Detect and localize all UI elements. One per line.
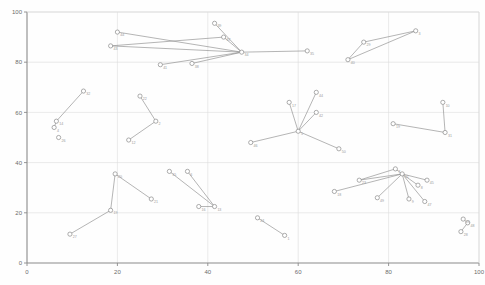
graph-node[interactable] xyxy=(240,50,244,54)
graph-node[interactable] xyxy=(212,204,216,208)
graph-node-label: 19 xyxy=(113,211,117,215)
graph-node[interactable] xyxy=(81,89,85,93)
graph-node[interactable] xyxy=(197,204,201,208)
graph-node-label: 43 xyxy=(113,47,117,51)
graph-node[interactable] xyxy=(287,100,291,104)
graph-node[interactable] xyxy=(283,233,287,237)
graph-edge xyxy=(334,174,402,192)
graph-node[interactable] xyxy=(305,49,309,53)
graph-node[interactable] xyxy=(337,147,341,151)
graph-edge xyxy=(359,169,395,180)
graph-node[interactable] xyxy=(441,100,445,104)
graph-node[interactable] xyxy=(362,40,366,44)
graph-node-label: 11 xyxy=(405,175,409,179)
graph-node-label: 50 xyxy=(342,150,346,154)
graph-node[interactable] xyxy=(346,58,350,62)
graph-node-label: 25 xyxy=(466,220,470,224)
graph-node[interactable] xyxy=(332,189,336,193)
graph-node-label: 27 xyxy=(73,235,77,239)
graph-node[interactable] xyxy=(222,35,226,39)
graph-edge xyxy=(111,37,224,46)
graph-node[interactable] xyxy=(393,167,397,171)
graph-node[interactable] xyxy=(113,172,117,176)
graph-node-label: 14 xyxy=(59,122,63,126)
graph-node[interactable] xyxy=(158,63,162,67)
graph-node[interactable] xyxy=(109,208,113,212)
graph-node[interactable] xyxy=(127,138,131,142)
graph-node[interactable] xyxy=(425,178,429,182)
graph-node[interactable] xyxy=(400,172,404,176)
x-tick-label: 20 xyxy=(114,269,121,275)
graph-edge xyxy=(377,174,402,198)
graph-node[interactable] xyxy=(375,196,379,200)
graph-node-label: 17 xyxy=(292,104,296,108)
y-tick-label: 0 xyxy=(19,260,23,266)
edge-layer xyxy=(54,23,468,235)
graph-node-label: 32 xyxy=(86,92,90,96)
graph-node[interactable] xyxy=(138,94,142,98)
graph-node[interactable] xyxy=(255,216,259,220)
graph-node[interactable] xyxy=(212,21,216,25)
axis-ticks: 020406080100020406080100 xyxy=(12,9,485,275)
graph-node-label: 15 xyxy=(172,173,176,177)
x-tick-label: 100 xyxy=(474,269,485,275)
graph-node[interactable] xyxy=(391,122,395,126)
scatter-plot: 020406080100020406080100 444341383439373… xyxy=(0,0,485,285)
graph-edge xyxy=(56,91,83,121)
graph-node-label: 9 xyxy=(412,200,414,204)
graph-node[interactable] xyxy=(314,110,318,114)
graph-node[interactable] xyxy=(115,30,119,34)
graph-node[interactable] xyxy=(54,119,58,123)
graph-node[interactable] xyxy=(154,119,158,123)
graph-node[interactable] xyxy=(314,90,318,94)
graph-node-label: 38 xyxy=(195,65,199,69)
graph-node-label: 2 xyxy=(159,122,161,126)
graph-node[interactable] xyxy=(52,125,56,129)
chart-root: 020406080100020406080100 444341383439373… xyxy=(0,0,485,285)
graph-edge xyxy=(111,174,116,210)
graph-node-label: 48 xyxy=(471,224,475,228)
axes xyxy=(27,12,479,263)
graph-node-label: 26 xyxy=(61,139,65,143)
graph-node[interactable] xyxy=(185,169,189,173)
node-layer xyxy=(52,21,470,237)
graph-node[interactable] xyxy=(190,61,194,65)
graph-edge xyxy=(298,112,316,131)
graph-node[interactable] xyxy=(57,135,61,139)
x-tick-label: 80 xyxy=(385,269,392,275)
y-tick-label: 100 xyxy=(12,9,23,15)
graph-node-label: 31 xyxy=(448,134,452,138)
graph-node-label: 23 xyxy=(362,181,366,185)
graph-node[interactable] xyxy=(149,197,153,201)
graph-node-label: 34 xyxy=(245,53,249,57)
graph-node[interactable] xyxy=(414,29,418,33)
graph-node[interactable] xyxy=(459,230,463,234)
grid-lines xyxy=(27,12,479,263)
graph-node[interactable] xyxy=(109,44,113,48)
graph-node-label: 41 xyxy=(163,66,167,70)
graph-node-label: 46 xyxy=(254,144,258,148)
graph-node[interactable] xyxy=(416,183,420,187)
graph-node[interactable] xyxy=(407,197,411,201)
graph-node-label: 16 xyxy=(202,208,206,212)
graph-node-label: 18 xyxy=(337,193,341,197)
graph-edge xyxy=(129,121,156,140)
graph-node-label: 6 xyxy=(190,173,192,177)
graph-node-label: 4 xyxy=(57,129,59,133)
graph-node[interactable] xyxy=(461,217,465,221)
graph-edge xyxy=(192,52,242,63)
graph-node[interactable] xyxy=(443,130,447,134)
graph-node[interactable] xyxy=(423,199,427,203)
graph-node-label: 21 xyxy=(154,200,158,204)
graph-node-label: 8 xyxy=(421,186,423,190)
graph-node-label: 10 xyxy=(446,104,450,108)
graph-node[interactable] xyxy=(167,169,171,173)
graph-node[interactable] xyxy=(68,232,72,236)
graph-node[interactable] xyxy=(249,140,253,144)
graph-node-label: 49 xyxy=(380,199,384,203)
graph-node-label: 1 xyxy=(287,237,289,241)
graph-node-label: 35 xyxy=(310,52,314,56)
graph-node[interactable] xyxy=(296,129,300,133)
graph-node-label: 45 xyxy=(430,181,434,185)
graph-node[interactable] xyxy=(357,178,361,182)
